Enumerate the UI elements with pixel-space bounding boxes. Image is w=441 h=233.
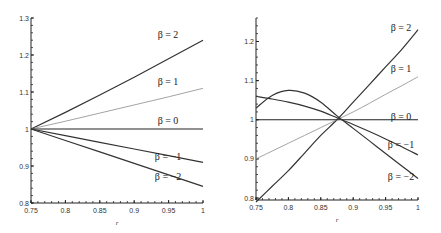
y-tick-label: 1.2 xyxy=(19,52,29,59)
y-tick-label: 1.1 xyxy=(19,89,29,96)
series-label: β = 1 xyxy=(158,76,179,87)
series-label: β = −1 xyxy=(388,139,414,150)
series-label: β = −2 xyxy=(155,171,181,182)
y-tick-label: 0.8 xyxy=(244,195,254,202)
series-line xyxy=(256,90,418,178)
series-label: β = 2 xyxy=(391,22,412,33)
series-label: β = −1 xyxy=(155,151,181,162)
y-tick-label: 1.1 xyxy=(244,77,254,84)
x-tick-label: 0.95 xyxy=(379,204,393,211)
x-tick-label: 0.95 xyxy=(162,207,176,214)
x-axis-title: r xyxy=(336,216,339,224)
x-tick-label: 0.75 xyxy=(24,207,38,214)
x-tick-label: 0.8 xyxy=(284,204,294,211)
series-label: β = 2 xyxy=(158,29,179,40)
x-tick-label: 1 xyxy=(416,204,420,211)
y-tick-label: 1 xyxy=(250,116,254,123)
x-tick-label: 0.8 xyxy=(61,207,71,214)
x-tick-label: 0.85 xyxy=(314,204,328,211)
chart-right: 0.80.911.11.20.750.80.850.90.951rβ = 2β … xyxy=(244,18,420,224)
x-tick-label: 1 xyxy=(201,207,205,214)
x-tick-label: 0.85 xyxy=(93,207,107,214)
y-tick-label: 1.2 xyxy=(244,38,254,45)
series-label: β = 0 xyxy=(391,111,412,122)
y-tick-label: 1.3 xyxy=(19,15,29,22)
y-tick-label: 1 xyxy=(25,126,29,133)
series-label: β = −2 xyxy=(388,171,414,182)
series-label: β = 1 xyxy=(391,63,412,74)
x-tick-label: 0.9 xyxy=(348,204,358,211)
chart-left: 0.80.911.11.21.30.750.80.850.90.951rβ = … xyxy=(19,15,205,228)
x-tick-label: 0.9 xyxy=(129,207,139,214)
x-axis-title: r xyxy=(116,219,119,227)
x-tick-label: 0.75 xyxy=(249,204,263,211)
figure: 0.80.911.11.21.30.750.80.850.90.951rβ = … xyxy=(0,0,441,233)
series-label: β = 0 xyxy=(158,115,179,126)
y-tick-label: 0.8 xyxy=(19,200,29,207)
y-tick-label: 0.9 xyxy=(244,155,254,162)
y-tick-label: 0.9 xyxy=(19,163,29,170)
